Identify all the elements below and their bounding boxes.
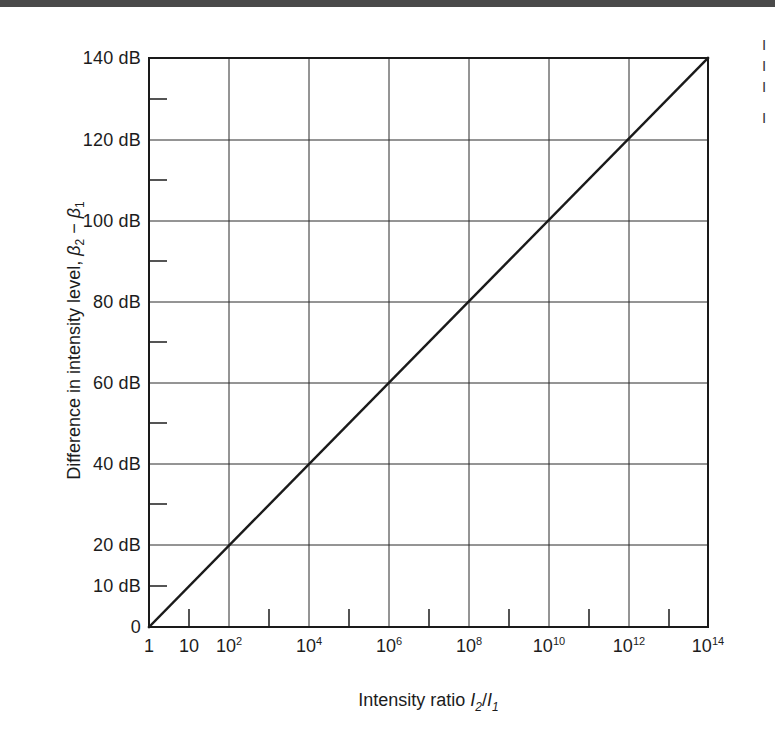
x-tick-label-1e10: 1010 [533,637,565,655]
x-axis-title: Intensity ratio I2/I1 [149,690,708,711]
page-margin-cropped-text: I I I I [762,34,775,128]
x-tick-label-1e2: 102 [216,637,242,655]
y-axis-title-subscript-2: 1 [73,201,87,208]
x-tick-label-1e12: 1012 [613,637,645,655]
x-tick-base: 10 [376,636,396,656]
x-tick-label-1e1: 10 [179,637,199,655]
x-tick-exponent: 2 [236,635,242,647]
margin-text-gap [762,97,775,107]
x-tick-label-1e14: 1014 [692,637,724,655]
x-tick-exponent: 8 [476,635,482,647]
x-tick-base: 10 [296,636,316,656]
x-tick-base: 10 [179,636,199,656]
x-axis-title-subscript-2: 1 [492,700,499,714]
x-tick-base: 10 [456,636,476,656]
x-tick-exponent: 4 [316,635,322,647]
y-axis-title: Difference in intensity level, β2 − β1 [64,51,85,631]
figure-chart: 140 dB 120 dB 100 dB 80 dB 60 dB 40 dB 2… [0,0,775,738]
margin-text-line: I [762,76,775,97]
margin-text-line: I [762,55,775,76]
x-tick-label-1e4: 104 [296,637,322,655]
x-tick-label-1e8: 108 [456,637,482,655]
x-axis-title-prefix: Intensity ratio [358,690,470,710]
y-axis-title-subscript-1: 2 [73,239,87,246]
y-axis-title-symbol-1: β [64,246,84,256]
x-axis-tick-labels: 1 10 102 104 106 108 1010 1012 1014 [0,0,775,738]
x-tick-base: 10 [533,636,553,656]
x-tick-exponent: 14 [712,635,724,647]
x-tick-base: 10 [613,636,633,656]
y-axis-title-prefix: Difference in intensity level, [64,256,84,480]
x-tick-exponent: 12 [633,635,645,647]
x-tick-base: 10 [216,636,236,656]
x-tick-exponent: 6 [396,635,402,647]
x-tick-base: 10 [692,636,712,656]
margin-text-line: I [762,34,775,55]
x-tick-label-1e6: 106 [376,637,402,655]
margin-text-line: I [762,107,775,128]
x-axis-title-subscript-1: 2 [475,700,482,714]
x-tick-base: 1 [144,636,154,656]
x-tick-label-1e0: 1 [144,637,154,655]
x-tick-exponent: 10 [553,635,565,647]
y-axis-title-symbol-2: β [64,208,84,218]
y-axis-title-minus: − [64,218,84,239]
